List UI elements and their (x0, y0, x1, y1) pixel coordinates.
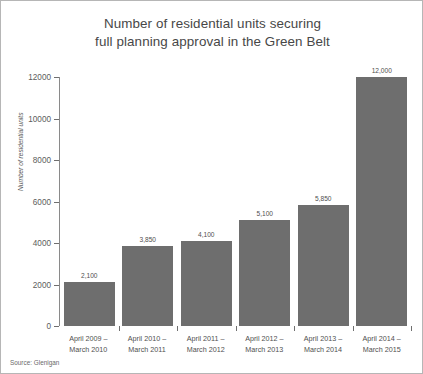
x-axis-labels: April 2009 –March 2010April 2010 –March … (59, 334, 411, 360)
x-axis-category-line: April 2013 – (294, 334, 353, 345)
chart-figure: Number of residential units securing ful… (0, 0, 423, 374)
bar (356, 77, 407, 326)
x-axis-category-line: March 2014 (294, 345, 353, 356)
y-axis-tick-label: 8000 (33, 156, 51, 165)
x-axis-separator-tick (177, 326, 178, 331)
y-axis-tick (54, 285, 59, 286)
y-axis-tick-label: 0 (46, 322, 51, 331)
x-axis-category-line: April 2014 – (352, 334, 411, 345)
y-axis-title: Number of residential units (17, 113, 24, 191)
x-axis-category-line: March 2011 (118, 345, 177, 356)
x-axis-category-line: April 2011 – (176, 334, 235, 345)
bar-group: 5,850 (294, 77, 353, 326)
bar-group: 3,850 (119, 77, 178, 326)
bar (122, 246, 173, 326)
bar-value-label: 12,000 (353, 67, 412, 74)
bar-value-label: 3,850 (119, 236, 178, 243)
bar (181, 241, 232, 326)
bar-group: 12,000 (353, 77, 412, 326)
x-axis-separator-tick (294, 326, 295, 331)
x-axis-category-line: April 2009 – (59, 334, 118, 345)
x-axis-category-line: March 2013 (235, 345, 294, 356)
x-axis-category-label: April 2010 –March 2011 (118, 334, 177, 355)
y-axis-tick (54, 119, 59, 120)
y-axis-tick (54, 202, 59, 203)
y-axis-tick (54, 243, 59, 244)
x-axis-separator-tick (411, 326, 412, 331)
x-axis-category-label: April 2009 –March 2010 (59, 334, 118, 355)
x-axis-category-label: April 2011 –March 2012 (176, 334, 235, 355)
x-axis-category-line: April 2012 – (235, 334, 294, 345)
bar-series: 2,1003,8504,1005,1005,85012,000 (60, 77, 411, 326)
bar-value-label: 4,100 (177, 231, 236, 238)
x-axis-category-label: April 2013 –March 2014 (294, 334, 353, 355)
x-axis-separator-tick (119, 326, 120, 331)
chart-title-line-1: Number of residential units securing (1, 15, 423, 33)
bar-value-label: 5,850 (294, 195, 353, 202)
bar-group: 4,100 (177, 77, 236, 326)
x-axis-category-line: March 2012 (176, 345, 235, 356)
source-note: Source: Glenigan (10, 359, 59, 366)
y-axis-tick-label: 2000 (33, 280, 51, 289)
x-axis-category-label: April 2012 –March 2013 (235, 334, 294, 355)
x-axis-separator-tick (353, 326, 354, 331)
bar (64, 282, 115, 326)
x-axis-separator-tick (236, 326, 237, 331)
bar-group: 2,100 (60, 77, 119, 326)
bar-group: 5,100 (236, 77, 295, 326)
bar-value-label: 5,100 (236, 210, 295, 217)
y-axis-tick (54, 77, 59, 78)
chart-title: Number of residential units securing ful… (1, 15, 423, 50)
plot-area: 020004000600080001000012000 2,1003,8504,… (59, 77, 411, 326)
bar-value-label: 2,100 (60, 272, 119, 279)
y-axis-tick (54, 326, 59, 327)
bar (298, 205, 349, 326)
y-axis-tick-label: 12000 (28, 73, 51, 82)
x-axis-category-line: April 2010 – (118, 334, 177, 345)
bar (239, 220, 290, 326)
y-axis-tick-label: 4000 (33, 239, 51, 248)
x-axis-category-line: March 2015 (352, 345, 411, 356)
y-axis-tick (54, 160, 59, 161)
x-axis-category-line: March 2010 (59, 345, 118, 356)
y-axis-tick-label: 6000 (33, 197, 51, 206)
chart-title-line-2: full planning approval in the Green Belt (1, 33, 423, 51)
x-axis-category-label: April 2014 –March 2015 (352, 334, 411, 355)
y-axis-tick-label: 10000 (28, 114, 51, 123)
